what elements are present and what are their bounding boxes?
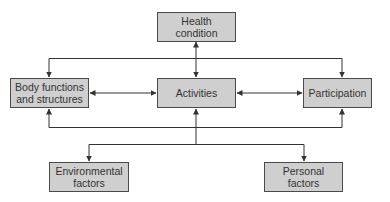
node-health-condition: Health condition [157,12,236,42]
node-personal-factors: Personal factors [264,162,343,192]
node-activities: Activities [157,78,236,108]
node-label: Health condition [175,15,217,39]
icf-diagram: Health condition Body functions and stru… [0,0,390,202]
node-environmental-factors: Environmental factors [49,162,129,192]
node-participation: Participation [303,78,372,108]
node-label: Body functions and structures [15,81,84,105]
node-label: Environmental factors [55,165,122,189]
node-label: Personal factors [283,165,324,189]
node-label: Participation [309,87,367,99]
node-label: Activities [176,87,217,99]
node-body-functions: Body functions and structures [10,78,89,108]
